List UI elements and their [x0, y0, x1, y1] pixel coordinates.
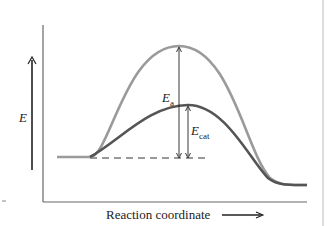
energy-diagram: E Ea Ecat Reaction coordinate: [0, 0, 329, 226]
ea-symbol: E: [162, 90, 170, 105]
catalyzed-curve: [90, 105, 307, 185]
uncatalyzed-curve: [57, 46, 307, 185]
ecat-subscript: cat: [199, 131, 210, 141]
ecat-label: Ecat: [191, 123, 209, 141]
ea-subscript: a: [170, 98, 174, 108]
diagram-canvas: [0, 0, 329, 226]
ecat-symbol: E: [191, 123, 199, 138]
x-axis-label: Reaction coordinate: [106, 207, 210, 223]
y-axis-label: E: [19, 110, 27, 126]
ea-label: Ea: [162, 90, 174, 108]
